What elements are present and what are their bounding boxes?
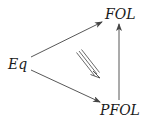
arrow-eq-to-fol <box>31 22 102 57</box>
node-eq: Eq <box>8 57 27 71</box>
triple-arrow-icon <box>77 50 101 79</box>
arrow-eq-to-pfol <box>31 70 100 102</box>
node-fol: FOL <box>105 7 136 21</box>
node-pfol: PFOL <box>100 103 140 117</box>
diagram-canvas: FOL Eq PFOL <box>0 0 147 127</box>
